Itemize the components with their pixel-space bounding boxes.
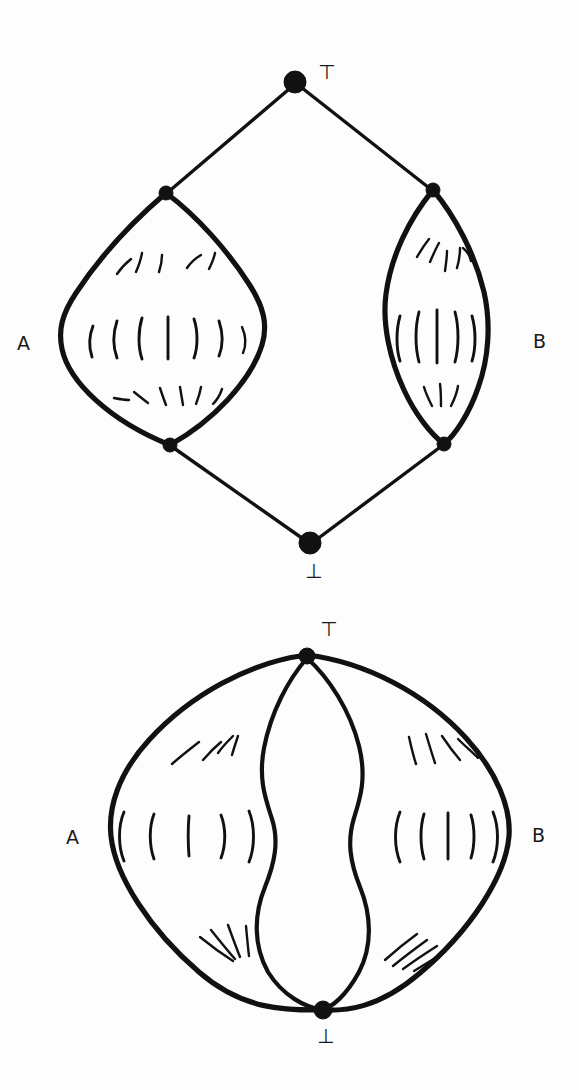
diagram-panel-bottom: ⊤ ⊥ A B [0, 600, 579, 1090]
bottom-node-label: ⊥ [317, 1024, 335, 1048]
region-a-outline-left [61, 193, 170, 445]
region-a-label: A [17, 332, 31, 354]
edge-top-to-left-upper [167, 84, 295, 193]
top-node [284, 71, 306, 93]
region-b-outline-left [385, 190, 444, 444]
lattice-edges-top [167, 84, 443, 543]
region-a-outer-arc [110, 655, 323, 1010]
middle-region-right-curve [307, 658, 369, 1010]
region-b-hatch-lower [424, 384, 458, 406]
diagram-panel-top: ⊤ ⊥ A B [0, 0, 579, 600]
region-b-label: B [532, 824, 546, 846]
diagram-svg-top: ⊤ ⊥ A B [0, 0, 579, 600]
top-node [299, 648, 315, 664]
region-a-hatch-middle [90, 317, 245, 359]
region-b-top [385, 190, 488, 444]
diagram-svg-bottom: ⊤ ⊥ A B [0, 600, 579, 1090]
region-b-hatch-middle [397, 310, 475, 363]
region-b-outer-arc [307, 655, 509, 1010]
bottom-node-label: ⊥ [305, 559, 323, 583]
bottom-node [314, 1001, 332, 1019]
right-upper-node [426, 183, 440, 197]
left-upper-node [159, 186, 173, 200]
region-b-hatch-upper [417, 239, 471, 271]
right-lower-node [437, 437, 451, 451]
lattice-nodes-bottom [299, 648, 332, 1019]
figure-root: ⊤ ⊥ A B [0, 0, 579, 1090]
top-node-label: ⊤ [318, 60, 336, 84]
region-b-hatch-bottom [385, 734, 498, 971]
middle-region-left-curve [257, 658, 322, 1010]
region-a-hatch-lower [114, 387, 222, 405]
region-a-outline-right [166, 193, 265, 445]
left-lower-node [163, 438, 177, 452]
region-b-label: B [533, 330, 547, 352]
top-node-label: ⊤ [320, 617, 338, 641]
region-a-label: A [66, 826, 80, 848]
region-a-hatch-bottom [120, 736, 254, 961]
region-a-top [61, 193, 265, 445]
region-a-hatch-upper [117, 253, 215, 274]
edge-top-to-right-upper [297, 84, 433, 191]
edge-left-lower-to-bottom [171, 446, 309, 543]
lattice-nodes-top [159, 71, 451, 554]
bottom-node [299, 532, 321, 554]
edge-right-lower-to-bottom [312, 445, 443, 543]
